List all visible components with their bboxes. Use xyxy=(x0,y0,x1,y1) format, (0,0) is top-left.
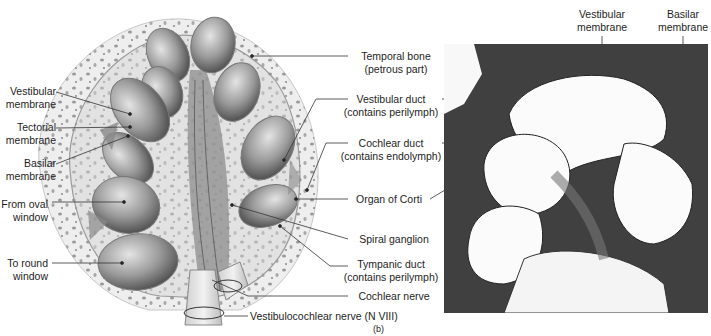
panel-label: (b) xyxy=(373,323,384,336)
label-from-oval-window: From ovalwindow xyxy=(0,198,48,223)
label-cochlear-duct: Cochlear duct(contains endolymph) xyxy=(336,137,446,162)
label-basilar-membrane-left: Basilarmembrane xyxy=(4,157,56,182)
label-vestibular-membrane-left: Vestibularmembrane xyxy=(4,85,56,110)
label-organ-of-corti: Organ of Corti xyxy=(346,193,432,206)
label-spiral-ganglion: Spiral ganglion xyxy=(346,233,442,246)
cochlea-micrograph xyxy=(444,44,708,313)
label-vestibular-duct: Vestibular duct(contains perilymph) xyxy=(336,93,446,118)
label-to-round-window: To roundwindow xyxy=(0,257,48,282)
label-basilar-membrane-right: Basilarmembrane xyxy=(653,8,711,33)
label-cochlear-nerve: Cochlear nerve xyxy=(346,290,442,303)
label-temporal-bone: Temporal bone(petrous part) xyxy=(346,50,446,75)
label-vestibular-membrane-right: Vestibularmembrane xyxy=(572,8,632,33)
label-tectorial-membrane: Tectorialmembrane xyxy=(4,121,56,146)
label-vestibulocochlear-nerve: Vestibulocochlear nerve (N VIII) xyxy=(250,310,398,323)
label-tympanic-duct: Tympanic duct(contains perilymph) xyxy=(336,258,446,283)
